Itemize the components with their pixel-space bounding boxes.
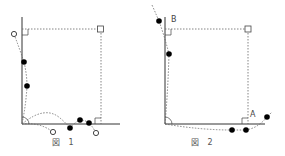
fig2-filled-point: [264, 114, 270, 120]
fig1-dotted-curve-lower: [22, 124, 53, 132]
fig1-filled-point: [86, 120, 92, 126]
fig2-right-angle-bottom-right: [242, 118, 248, 124]
fig2-right-angle-top-left: [165, 29, 171, 35]
fig2-filled-point: [229, 127, 235, 133]
diagram-canvas: [0, 0, 285, 156]
fig1-filled-point: [24, 83, 30, 89]
fig2-origin-angle-arc: [165, 117, 172, 124]
fig1-dotted-curve-left: [14, 34, 27, 124]
fig2-filled-point: [156, 18, 162, 24]
fig2-caption: 図 2: [191, 139, 216, 147]
fig2-corner-square-top-right: [245, 26, 251, 32]
fig1-open-point: [93, 130, 98, 135]
figure-1: [11, 17, 120, 136]
fig1-caption: 図 1: [52, 139, 77, 147]
fig2-label-b: B: [171, 16, 177, 24]
fig1-open-point: [11, 31, 16, 36]
fig1-filled-point: [77, 117, 83, 123]
fig1-right-angle-bottom-right: [95, 118, 101, 124]
fig2-dotted-curve-bottom: [165, 112, 272, 130]
fig2-label-a: A: [250, 111, 255, 119]
fig2-filled-point: [243, 127, 249, 133]
fig1-open-point: [50, 129, 55, 134]
fig1-corner-square-top-right: [98, 26, 104, 32]
fig1-dotted-curve-right: [70, 120, 96, 133]
fig1-filled-point: [67, 125, 73, 131]
fig1-dotted-curve-arc: [22, 113, 70, 128]
fig2-filled-point: [166, 51, 172, 57]
fig1-right-angle-top-left: [22, 29, 28, 35]
fig1-filled-point: [21, 59, 27, 65]
